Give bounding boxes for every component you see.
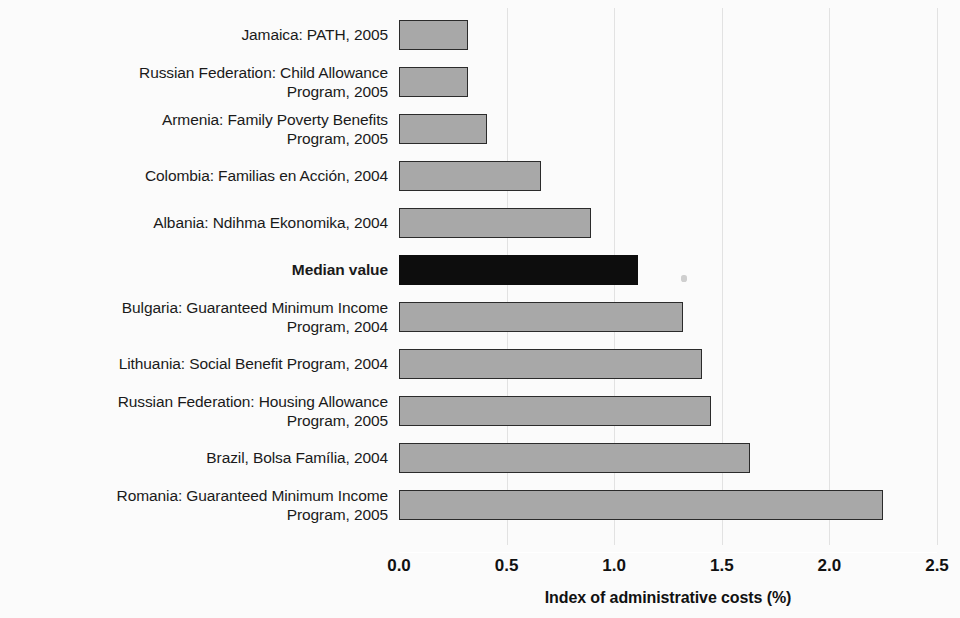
bar bbox=[399, 67, 468, 97]
bar bbox=[399, 443, 750, 473]
bar-category-label: Russian Federation: Housing AllowancePro… bbox=[0, 392, 388, 430]
bar-category-label-line1: Russian Federation: Housing Allowance bbox=[118, 393, 388, 410]
bar-row: Jamaica: PATH, 2005 bbox=[0, 20, 960, 67]
bar-category-label-line1: Lithuania: Social Benefit Program, 2004 bbox=[119, 355, 388, 372]
bar bbox=[399, 349, 702, 379]
bar bbox=[399, 208, 591, 238]
bar-category-label: Brazil, Bolsa Família, 2004 bbox=[0, 448, 388, 467]
bar-category-label: Bulgaria: Guaranteed Minimum IncomeProgr… bbox=[0, 298, 388, 336]
bar-category-label-line1: Jamaica: PATH, 2005 bbox=[241, 26, 388, 43]
bar-category-label-line2: Program, 2005 bbox=[287, 412, 388, 429]
bar-category-label: Lithuania: Social Benefit Program, 2004 bbox=[0, 354, 388, 373]
bar-row: Brazil, Bolsa Família, 2004 bbox=[0, 443, 960, 490]
bar-row: Colombia: Familias en Acción, 2004 bbox=[0, 161, 960, 208]
x-axis-title: Index of administrative costs (%) bbox=[399, 589, 937, 607]
x-axis-tick-label: 0.0 bbox=[369, 556, 429, 576]
bar-category-label: Russian Federation: Child AllowanceProgr… bbox=[0, 63, 388, 101]
bar-category-label-line2: Program, 2005 bbox=[287, 130, 388, 147]
median-value-bar bbox=[399, 255, 638, 285]
bar-category-label: Armenia: Family Poverty BenefitsProgram,… bbox=[0, 110, 388, 148]
x-axis-line bbox=[399, 552, 937, 553]
bar-category-label: Colombia: Familias en Acción, 2004 bbox=[0, 166, 388, 185]
bar-category-label: Median value bbox=[0, 260, 388, 279]
bar-row: Albania: Ndihma Ekonomika, 2004 bbox=[0, 208, 960, 255]
bar bbox=[399, 161, 541, 191]
bar-category-label-line2: Program, 2005 bbox=[287, 506, 388, 523]
bar-row: Bulgaria: Guaranteed Minimum IncomeProgr… bbox=[0, 302, 960, 349]
bar-row: Lithuania: Social Benefit Program, 2004 bbox=[0, 349, 960, 396]
bar-category-label-line1: Armenia: Family Poverty Benefits bbox=[162, 111, 388, 128]
bar-row: Romania: Guaranteed Minimum IncomeProgra… bbox=[0, 490, 960, 537]
x-axis-tick-label: 2.5 bbox=[907, 556, 960, 576]
bar bbox=[399, 490, 883, 520]
bar-category-label: Jamaica: PATH, 2005 bbox=[0, 25, 388, 44]
bar-category-label-line1: Brazil, Bolsa Família, 2004 bbox=[206, 449, 388, 466]
bar-chart: Jamaica: PATH, 2005Russian Federation: C… bbox=[0, 0, 960, 618]
bar-category-label-line2: Program, 2005 bbox=[287, 83, 388, 100]
bar bbox=[399, 396, 711, 426]
bar bbox=[399, 114, 487, 144]
bar bbox=[399, 20, 468, 50]
bar-category-label-line1: Colombia: Familias en Acción, 2004 bbox=[145, 167, 388, 184]
bar bbox=[399, 302, 683, 332]
bar-category-label-line1: Bulgaria: Guaranteed Minimum Income bbox=[122, 299, 388, 316]
x-axis-tick-label: 1.5 bbox=[692, 556, 752, 576]
x-axis-tick-label: 1.0 bbox=[584, 556, 644, 576]
bar-row: Russian Federation: Housing AllowancePro… bbox=[0, 396, 960, 443]
x-axis-tick-label: 0.5 bbox=[477, 556, 537, 576]
bar-category-label: Romania: Guaranteed Minimum IncomeProgra… bbox=[0, 486, 388, 524]
bar-category-label-line1: Median value bbox=[292, 261, 388, 278]
bar-category-label-line1: Russian Federation: Child Allowance bbox=[139, 64, 388, 81]
bar-row: Russian Federation: Child AllowanceProgr… bbox=[0, 67, 960, 114]
x-axis-tick-label: 2.0 bbox=[799, 556, 859, 576]
bar-row: Median value bbox=[0, 255, 960, 302]
bar-category-label-line2: Program, 2004 bbox=[287, 318, 388, 335]
bar-category-label: Albania: Ndihma Ekonomika, 2004 bbox=[0, 213, 388, 232]
bar-category-label-line1: Romania: Guaranteed Minimum Income bbox=[117, 487, 388, 504]
bar-row: Armenia: Family Poverty BenefitsProgram,… bbox=[0, 114, 960, 161]
bar-category-label-line1: Albania: Ndihma Ekonomika, 2004 bbox=[153, 214, 388, 231]
